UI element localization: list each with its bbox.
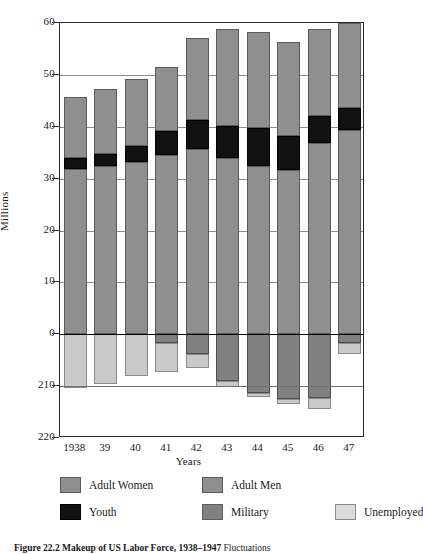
legend-label-men: Adult Men [231, 479, 281, 491]
bar-segment-youth [125, 146, 148, 162]
y-tick-mark [52, 333, 59, 334]
x-tick-label: 47 [334, 441, 365, 453]
legend-item-youth: Youth [60, 504, 117, 520]
bar-segment-unemployed [338, 343, 361, 355]
plot-area [59, 22, 364, 437]
bar-segment-youth [277, 136, 300, 170]
legend-swatch-youth [60, 504, 81, 520]
x-tick-label: 41 [151, 441, 182, 453]
bar-segment-unemployed [308, 398, 331, 410]
bar-segment-military [308, 334, 331, 397]
bar-group [338, 23, 361, 436]
bar-segment-adult-women [125, 79, 148, 147]
x-tick-label: 1938 [59, 441, 90, 453]
bar-segment-adult-men [186, 149, 209, 335]
bar-segment-unemployed [94, 334, 117, 383]
bar-segment-youth [94, 154, 117, 166]
bar-segment-youth [247, 128, 270, 166]
y-axis-label: Millions [0, 191, 10, 231]
bar-segment-adult-women [186, 38, 209, 120]
bar-segment-adult-men [94, 166, 117, 334]
x-tick-label: 40 [120, 441, 151, 453]
caption-title: Figure 22.2 Makeup of US Labor Force, 19… [14, 543, 221, 553]
legend-label-military: Military [231, 506, 269, 518]
bar-group [186, 23, 209, 436]
bar-group [94, 23, 117, 436]
y-tick-mark [52, 22, 59, 23]
bar-segment-unemployed [247, 393, 270, 397]
x-tick-label: 44 [242, 441, 273, 453]
legend-item-women: Adult Women [60, 477, 153, 493]
figure-caption: Figure 22.2 Makeup of US Labor Force, 19… [14, 543, 374, 554]
legend: Adult WomenAdult MenYouthMilitaryUnemplo… [60, 477, 360, 527]
y-tick-mark [52, 178, 59, 179]
bar-segment-adult-men [125, 162, 148, 334]
x-tick-label: 39 [90, 441, 121, 453]
x-tick-label: 46 [303, 441, 334, 453]
bar-segment-military [277, 334, 300, 398]
bar-segment-adult-women [277, 42, 300, 136]
y-tick-mark [52, 281, 59, 282]
bar-group [308, 23, 331, 436]
gridline--10 [60, 386, 363, 387]
legend-swatch-women [60, 477, 81, 493]
y-tick-mark [52, 74, 59, 75]
bar-segment-adult-women [155, 67, 178, 131]
bar-segment-adult-women [247, 32, 270, 128]
legend-label-youth: Youth [89, 506, 117, 518]
bar-segment-adult-women [308, 29, 331, 117]
bar-segment-unemployed [277, 399, 300, 404]
bar-group [155, 23, 178, 436]
legend-swatch-men [202, 477, 223, 493]
legend-swatch-military [202, 504, 223, 520]
bar-group [216, 23, 239, 436]
legend-swatch-unemp [335, 504, 356, 520]
bar-segment-youth [338, 108, 361, 130]
bar-segment-youth [155, 131, 178, 155]
bar-segment-adult-women [94, 89, 117, 153]
x-axis-label: Years [0, 455, 377, 467]
bar-segment-adult-women [338, 23, 361, 108]
bar-segment-youth [216, 126, 239, 158]
legend-label-unemp: Unemployed [364, 506, 423, 518]
y-tick-mark [52, 230, 59, 231]
bar-segment-unemployed [125, 334, 148, 376]
bar-segment-adult-women [216, 29, 239, 126]
x-tick-label: 43 [212, 441, 243, 453]
bar-group [277, 23, 300, 436]
bar-segment-adult-men [64, 169, 87, 334]
bar-segment-unemployed [155, 343, 178, 372]
bar-segment-adult-men [216, 158, 239, 334]
legend-item-military: Military [202, 504, 269, 520]
bar-segment-adult-men [338, 130, 361, 334]
y-tick-mark [52, 385, 59, 386]
legend-label-women: Adult Women [89, 479, 153, 491]
bar-segment-military [247, 334, 270, 393]
bar-group [247, 23, 270, 436]
bar-segment-adult-men [247, 166, 270, 334]
bar-segment-adult-men [277, 170, 300, 334]
bar-segment-unemployed [64, 334, 87, 388]
bar-segment-unemployed [186, 354, 209, 368]
y-tick-mark [52, 437, 59, 438]
caption-body: Fluctuations [221, 543, 270, 553]
bar-segment-youth [308, 116, 331, 143]
bar-group [64, 23, 87, 436]
x-tick-label: 45 [273, 441, 304, 453]
gridline-0 [60, 334, 363, 335]
bar-segment-military [155, 334, 178, 342]
bar-segment-military [186, 334, 209, 354]
bar-segment-adult-men [308, 143, 331, 334]
bar-segment-adult-men [155, 155, 178, 334]
x-tick-label: 42 [181, 441, 212, 453]
bar-segment-military [338, 334, 361, 342]
legend-item-unemp: Unemployed [335, 504, 423, 520]
bar-segment-military [216, 334, 239, 381]
bar-group [125, 23, 148, 436]
bar-segment-youth [64, 158, 87, 169]
bar-segment-adult-women [64, 97, 87, 159]
y-tick-mark [52, 126, 59, 127]
legend-item-men: Adult Men [202, 477, 281, 493]
bar-segment-youth [186, 120, 209, 149]
